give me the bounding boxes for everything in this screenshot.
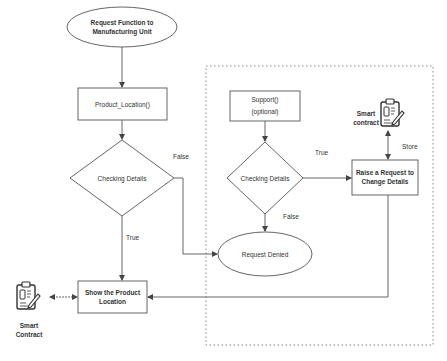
request-denied-label: Request Denied (242, 251, 289, 259)
show-product-location-node[interactable]: Show the Product Location (78, 281, 147, 313)
product-location-label: Product_Location() (95, 101, 150, 109)
label-store: Store (402, 143, 418, 150)
check-details-left-node[interactable]: Checking Details (70, 140, 174, 216)
raise-request-node[interactable]: Raise a Request to Change Details (352, 160, 418, 195)
clipboard-contract-icon (381, 99, 404, 126)
clipboard-contract-icon (17, 282, 40, 309)
support-node[interactable]: Support() (optional) (230, 91, 300, 121)
support-line2: (optional) (251, 108, 278, 116)
start-node[interactable]: Request Function to Manufacturing Unit (67, 7, 177, 47)
check-details-right-node[interactable]: Checking Details (227, 142, 303, 214)
start-node-line1: Request Function to (91, 19, 154, 27)
show-location-line2: Location (99, 298, 126, 305)
label-right-true: True (315, 149, 329, 156)
request-denied-node[interactable]: Request Denied (218, 232, 312, 276)
support-line1: Support() (251, 96, 278, 104)
show-location-line1: Show the Product (85, 289, 141, 296)
label-left-true: True (126, 234, 140, 241)
smart-contract-right[interactable]: Smart contract (353, 99, 404, 126)
label-right-false: False (283, 213, 299, 220)
smart-contract-left-line2: Contract (16, 331, 44, 338)
smart-contract-left-line1: Smart (20, 322, 39, 329)
raise-request-line2: Change Details (362, 178, 409, 186)
flowchart-canvas: Request Function to Manufacturing Unit P… (0, 0, 447, 361)
raise-request-line1: Raise a Request to (356, 169, 414, 177)
check-details-left-label: Checking Details (98, 175, 148, 183)
label-left-false: False (173, 153, 189, 160)
smart-contract-right-line1: Smart (357, 110, 376, 117)
check-details-right-label: Checking Details (241, 175, 291, 183)
flowchart-svg: Request Function to Manufacturing Unit P… (0, 0, 447, 361)
edge-left-false-to-denied (174, 178, 217, 254)
smart-contract-right-line2: contract (353, 119, 379, 126)
start-node-line2: Manufacturing Unit (92, 28, 152, 36)
smart-contract-left[interactable]: Smart Contract (16, 282, 44, 338)
product-location-node[interactable]: Product_Location() (78, 88, 167, 120)
